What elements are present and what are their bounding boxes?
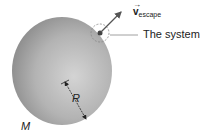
- escape-velocity-label: →vescape: [133, 6, 161, 18]
- velocity-subscript: escape: [139, 11, 162, 18]
- mass-label: M: [21, 120, 30, 132]
- velocity-arrow: [101, 12, 121, 32]
- escape-velocity-diagram: [0, 0, 202, 136]
- system-label: The system: [143, 28, 200, 40]
- radius-label: R: [72, 92, 80, 104]
- planet-sphere: [12, 17, 112, 125]
- vector-arrow-icon: →: [133, 0, 141, 9]
